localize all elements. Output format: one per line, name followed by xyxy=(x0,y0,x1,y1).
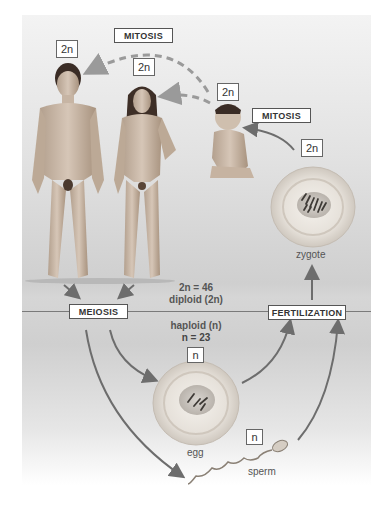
ground-shadow xyxy=(25,278,175,284)
ploidy-woman: 2n xyxy=(133,58,155,76)
haploid-count: n = 23 xyxy=(160,332,232,344)
ploidy-egg: n xyxy=(187,347,204,363)
sperm-cell xyxy=(188,438,289,484)
haploid-label: haploid (n) xyxy=(160,320,232,332)
fertilization-label: FERTILIZATION xyxy=(268,305,346,320)
egg-to-fertilization-arrow xyxy=(242,322,290,383)
ploidy-man: 2n xyxy=(56,40,78,58)
zygote-cell xyxy=(271,167,355,247)
zygote-to-baby-arrow xyxy=(246,128,294,150)
meiosis-to-egg-arrow xyxy=(110,330,155,380)
ploidy-baby: 2n xyxy=(217,83,239,101)
mitosis-label-right: MITOSIS xyxy=(252,108,311,123)
diagram-graphics xyxy=(0,0,389,514)
egg-cell xyxy=(153,361,239,445)
mitosis-label-top: MITOSIS xyxy=(114,28,173,43)
egg-caption: egg xyxy=(187,447,204,458)
woman-figure xyxy=(114,87,176,279)
zygote-caption: zygote xyxy=(296,249,325,260)
woman-to-meiosis-arrow xyxy=(120,285,134,297)
ploidy-sperm: n xyxy=(246,429,263,445)
sperm-to-fertilization-arrow xyxy=(298,322,338,440)
ploidy-zygote: 2n xyxy=(301,139,323,157)
meiosis-label: MEIOSIS xyxy=(69,304,128,319)
diploid-count: 2n = 46 xyxy=(160,282,232,294)
diploid-label: diploid (2n) xyxy=(160,294,232,306)
man-figure xyxy=(32,63,104,278)
baby-figure xyxy=(210,104,254,178)
man-to-meiosis-arrow xyxy=(64,285,78,297)
sperm-caption: sperm xyxy=(248,466,276,477)
